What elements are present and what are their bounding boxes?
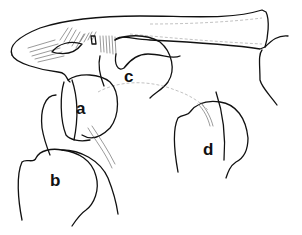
bone-b-outline xyxy=(18,149,118,226)
bone-c-outline xyxy=(98,36,208,110)
label-c: c xyxy=(124,67,133,86)
bone-d-outline xyxy=(174,92,248,178)
upper-bar-outline xyxy=(11,10,288,105)
label-b: b xyxy=(50,171,60,190)
label-a: a xyxy=(76,99,86,118)
anatomical-illustration: a b c d xyxy=(0,0,302,235)
ligament-hatching xyxy=(28,28,116,62)
label-d: d xyxy=(203,140,213,159)
bone-a-outline xyxy=(42,75,118,168)
